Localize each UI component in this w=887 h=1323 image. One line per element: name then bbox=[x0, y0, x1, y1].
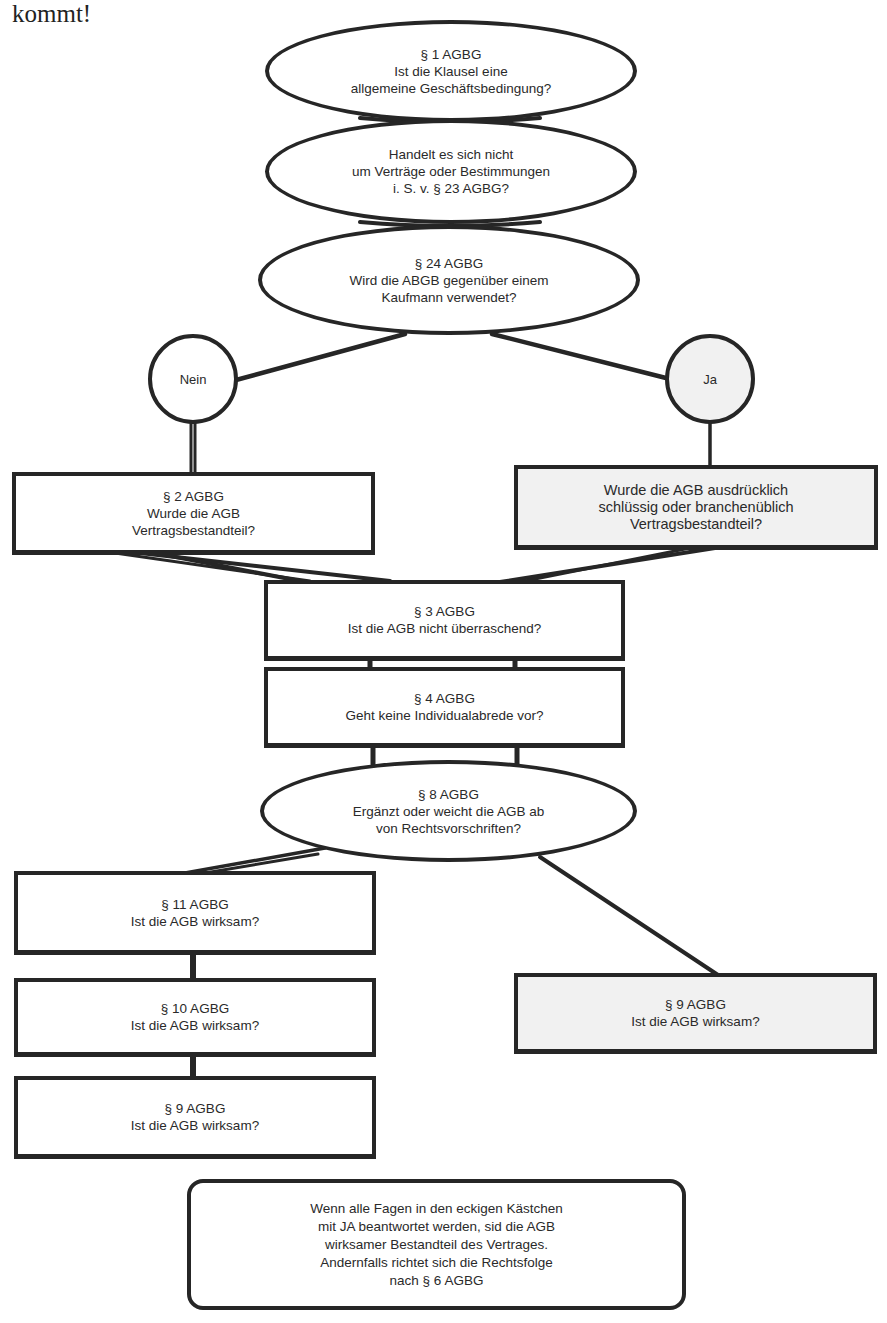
answer-nein-circle: Nein bbox=[148, 334, 238, 424]
check-par3-text: § 3 AGBG Ist die AGB nicht überraschend? bbox=[348, 603, 542, 637]
check-par10-text: § 10 AGBG Ist die AGB wirksam? bbox=[131, 1000, 259, 1034]
conclusion-text: Wenn alle Fagen in den eckigen Kästchen … bbox=[310, 1200, 563, 1290]
decision-par8-ellipse: § 8 AGBG Ergänzt oder weicht die AGB ab … bbox=[260, 760, 637, 862]
decision-par23-ellipse: Handelt es sich nicht um Verträge oder B… bbox=[265, 119, 637, 224]
check-par9-left-text: § 9 AGBG Ist die AGB wirksam? bbox=[131, 1100, 259, 1134]
check-par9-right-box: § 9 AGBG Ist die AGB wirksam? bbox=[514, 973, 877, 1054]
check-par4-box: § 4 AGBG Geht keine Individualabrede vor… bbox=[264, 667, 625, 748]
check-par3-box: § 3 AGBG Ist die AGB nicht überraschend? bbox=[264, 580, 625, 661]
check-par11-box: § 11 AGBG Ist die AGB wirksam? bbox=[14, 871, 376, 955]
answer-ja-circle: Ja bbox=[665, 334, 755, 424]
check-par10-box: § 10 AGBG Ist die AGB wirksam? bbox=[14, 978, 376, 1057]
answer-nein-label: Nein bbox=[180, 371, 207, 388]
decision-par1-text: § 1 AGBG Ist die Klausel eine allgemeine… bbox=[351, 46, 551, 97]
check-par9-right-text: § 9 AGBG Ist die AGB wirksam? bbox=[631, 996, 759, 1030]
check-par2-text: § 2 AGBG Wurde die AGB Vertragsbestandte… bbox=[132, 488, 255, 539]
check-kaufmann-einbeziehung-box: Wurde die AGB ausdrücklich schlüssig ode… bbox=[514, 465, 878, 550]
check-kaufmann-einbeziehung-text: Wurde die AGB ausdrücklich schlüssig ode… bbox=[598, 482, 793, 533]
decision-par23-text: Handelt es sich nicht um Verträge oder B… bbox=[352, 146, 550, 197]
check-par11-text: § 11 AGBG Ist die AGB wirksam? bbox=[131, 896, 259, 930]
decision-par24-text: § 24 AGBG Wird die ABGB gegenüber einem … bbox=[350, 255, 549, 306]
conclusion-box: Wenn alle Fagen in den eckigen Kästchen … bbox=[187, 1179, 686, 1310]
check-par9-left-box: § 9 AGBG Ist die AGB wirksam? bbox=[14, 1076, 376, 1159]
decision-par8-text: § 8 AGBG Ergänzt oder weicht die AGB ab … bbox=[353, 786, 544, 837]
check-par2-box: § 2 AGBG Wurde die AGB Vertragsbestandte… bbox=[12, 472, 375, 555]
check-par4-text: § 4 AGBG Geht keine Individualabrede vor… bbox=[345, 690, 543, 724]
decision-par24-ellipse: § 24 AGBG Wird die ABGB gegenüber einem … bbox=[258, 225, 640, 335]
decision-par1-ellipse: § 1 AGBG Ist die Klausel eine allgemeine… bbox=[265, 20, 637, 122]
answer-ja-label: Ja bbox=[703, 371, 717, 388]
